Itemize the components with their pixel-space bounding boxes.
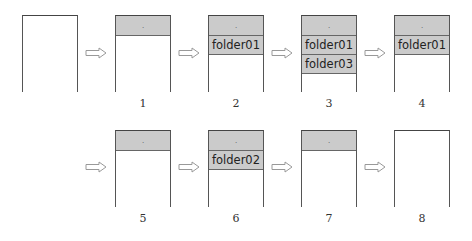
step-label: 4 [412,97,432,110]
stack-row-folder: folder01 [395,36,449,55]
stack-row-dot: . [116,131,170,151]
stack-row-dot: . [395,16,449,36]
stack-step-7: . [301,130,357,207]
step-label: 6 [226,212,246,225]
step-label: 2 [226,97,246,110]
stack-row-folder: folder01 [302,36,356,55]
stack-step-2: . folder01 [208,15,264,92]
arrow-right-icon [178,161,200,173]
stack-step-6: . folder02 [208,130,264,207]
stack-row-folder: folder02 [209,151,263,170]
step-label: 3 [319,97,339,110]
stack-row-dot: . [209,16,263,36]
stack-row-dot: . [302,131,356,151]
stack-step-3: . folder01 folder03 [301,15,357,92]
arrow-right-icon [271,161,293,173]
step-label: 5 [133,212,153,225]
stack-row-dot: . [209,131,263,151]
stack-step-8 [394,130,450,207]
arrow-right-icon [85,161,107,173]
arrow-right-icon [85,47,107,59]
stack-step-0 [22,15,78,92]
arrow-right-icon [178,47,200,59]
stack-step-1: . [115,15,171,92]
stack-step-5: . [115,130,171,207]
arrow-right-icon [364,47,386,59]
step-label: 1 [133,97,153,110]
arrow-right-icon [271,47,293,59]
stack-row-dot: . [116,16,170,36]
step-label: 7 [319,212,339,225]
stack-step-4: . folder01 [394,15,450,92]
step-label: 8 [412,212,432,225]
stack-row-folder: folder03 [302,55,356,74]
arrow-right-icon [364,161,386,173]
stack-row-dot: . [302,16,356,36]
stack-row-folder: folder01 [209,36,263,55]
